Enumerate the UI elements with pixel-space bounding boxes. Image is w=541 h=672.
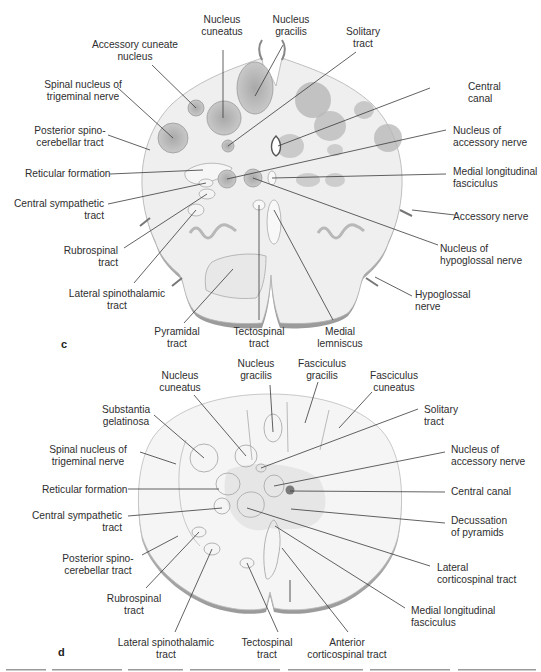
d-label-nucleus-gracilis: Nucleus gracilis [238,358,275,382]
label-line: fasciculus [411,617,495,629]
label-line: gracilis [298,370,346,382]
c-label-nucleus-hypoglossal: Nucleus of hypoglossal nerve [440,243,522,267]
label-line: Nucleus [201,14,242,26]
c-label-hypoglossal-nerve: Hypoglossal nerve [415,289,471,313]
label-line: Reticular formation [25,168,111,180]
label-line: tract [234,338,285,350]
label-line: Tectospinal [234,326,285,338]
c-label-nucleus-gracilis: Nucleus gracilis [273,14,310,38]
label-line: lemniscus [317,338,362,350]
label-line: corticospinal tract [437,574,516,586]
c-label-accessory-cuneate-nucleus: Accessory cuneate nucleus [92,39,178,63]
label-line: Pyramidal [154,326,199,338]
label-line: Spinal nucleus of [49,444,127,456]
label-line: trigeminal nerve [49,456,127,468]
label-line: Nucleus of [440,243,522,255]
label-line: Accessory nerve [453,211,528,223]
d-label-tectospinal-tract: Tectospinal tract [242,637,293,661]
c-label-rubrospinal: Rubrospinal tract [64,245,118,269]
label-line: accessory nerve [453,137,527,149]
label-line: Spinal nucleus of [44,79,122,91]
label-line: Solitary [346,26,380,38]
label-line: tract [154,338,199,350]
label-line: Lateral spinothalamic [118,637,214,649]
label-line: Decussation [451,515,507,527]
label-line: tract [107,605,161,617]
d-label-substantia-gelatinosa: Substantia gelatinosa [102,404,150,428]
c-label-tectospinal-tract: Tectospinal tract [234,326,285,350]
label-line: nucleus [92,51,178,63]
label-line: Rubrospinal [64,245,118,257]
label-line: tract [242,649,293,661]
d-label-posterior-spinocerebellar: Posterior spino- cerebellar tract [62,553,133,577]
c-label-spinal-nucleus-trigeminal: Spinal nucleus of trigeminal nerve [44,79,122,103]
label-line: hypoglossal nerve [440,255,522,267]
label-line: Central sympathetic [32,510,122,522]
label-line: Lateral [437,562,516,574]
c-label-central-canal: Central canal [468,81,501,105]
label-line: Nucleus of [453,125,527,137]
label-line: nerve [415,301,471,313]
label-line: Lateral spinothalamic [69,288,165,300]
c-nucleus-cuneatus-shape [207,101,241,135]
label-line: of pyramids [451,527,507,539]
c-label-nucleus-cuneatus: Nucleus cuneatus [201,14,242,38]
d-label-nucleus-accessory-nerve: Nucleus of accessory nerve [451,444,525,468]
d-label-fasciculus-gracilis: Fasciculus gracilis [298,358,346,382]
c-pyramidal-tract-shape [205,254,266,299]
d-label-medial-longitudinal-fasciculus: Medial longitudinal fasciculus [411,605,495,629]
c-label-reticular-formation: Reticular formation [25,168,111,180]
label-line: trigeminal nerve [44,91,122,103]
label-line: gracilis [273,26,310,38]
label-line: canal [468,93,501,105]
label-line: tract [64,257,118,269]
label-line: tract [69,300,165,312]
label-line: accessory nerve [451,456,525,468]
label-line: tract [14,210,104,222]
label-line: Fasciculus [298,358,346,370]
label-line: cuneatus [159,382,200,394]
d-label-reticular-formation: Reticular formation [42,484,128,496]
d-central-canal-shape [286,486,295,495]
label-line: Posterior spino- [34,125,105,137]
label-line: Anterior [307,637,386,649]
label-line: cuneatus [201,26,242,38]
c-label-solitary-tract: Solitary tract [346,26,380,50]
label-line: Central sympathetic [14,198,104,210]
label-line: Posterior spino- [62,553,133,565]
label-line: Medial longitudinal [453,166,537,178]
label-line: corticospinal tract [307,649,386,661]
label-line: tract [424,416,458,428]
d-label-decussation-pyramids: Decussation of pyramids [451,515,507,539]
c-label-posterior-spinocerebellar: Posterior spino- cerebellar tract [34,125,105,149]
d-label-lateral-corticospinal: Lateral corticospinal tract [437,562,516,586]
label-line: Central [468,81,501,93]
d-label-rubrospinal: Rubrospinal tract [107,593,161,617]
d-label-fasciculus-cuneatus: Fasciculus cuneatus [370,370,418,394]
label-line: Rubrospinal [107,593,161,605]
label-line: cerebellar tract [34,137,105,149]
label-line: gelatinosa [102,416,150,428]
c-label-nucleus-accessory-nerve: Nucleus of accessory nerve [453,125,527,149]
caption-cropped-glyphs [0,665,541,672]
label-line: cerebellar tract [62,565,133,577]
d-label-central-canal: Central canal [451,486,511,498]
c-label-lateral-spinothalamic: Lateral spinothalamic tract [69,288,165,312]
label-line: Hypoglossal [415,289,471,301]
label-line: Accessory cuneate [92,39,178,51]
label-line: Substantia [102,404,150,416]
c-central-canal-shape [272,136,281,156]
label-line: Nucleus [273,14,310,26]
label-line: tract [118,649,214,661]
label-line: Solitary [424,404,458,416]
label-line: Medial longitudinal [411,605,495,617]
c-label-medial-longitudinal-fasciculus: Medial longitudinal fasciculus [453,166,537,190]
c-label-medial-lemniscus: Medial lemniscus [317,326,362,350]
panel-d-letter: d [58,646,65,658]
c-label-central-sympathetic: Central sympathetic tract [14,198,104,222]
label-line: gracilis [238,370,275,382]
label-line: Nucleus [159,370,200,382]
d-label-central-sympathetic: Central sympathetic tract [32,510,122,534]
label-line: Nucleus [238,358,275,370]
label-line: Fasciculus [370,370,418,382]
